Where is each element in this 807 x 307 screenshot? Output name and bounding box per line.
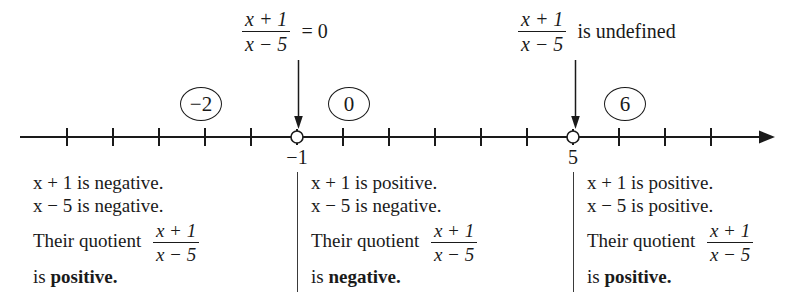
region-middle-line1: x + 1 is positive. [311, 173, 478, 192]
region-left-line1: x + 1 is negative. [33, 173, 200, 192]
region-right-quotient-denominator: x − 5 [707, 243, 753, 265]
region-left-text: x + 1 is negative. x − 5 is negative. Th… [33, 173, 200, 291]
sign-chart-diagram: x + 1 x − 5 = 0 x + 1 x − 5 is undefined… [0, 0, 807, 307]
region-middle-quotient: Their quotient x + 1 x − 5 [311, 220, 478, 266]
region-middle-conclusion-lead: is [311, 266, 324, 287]
region-right-conclusion: is positive. [587, 267, 754, 286]
region-left-line2: x − 5 is negative. [33, 196, 200, 215]
region-middle-conclusion-value: negative. [328, 266, 400, 287]
region-middle-conclusion: is negative. [311, 267, 478, 286]
region-middle-text: x + 1 is positive. x − 5 is negative. Th… [311, 173, 478, 291]
region-left-quotient-denominator: x − 5 [153, 243, 199, 265]
region-left-quotient-numerator: x + 1 [153, 220, 199, 243]
region-left-conclusion-value: positive. [50, 266, 117, 287]
region-right-text: x + 1 is positive. x − 5 is positive. Th… [587, 173, 754, 291]
region-right-quotient-numerator: x + 1 [707, 220, 753, 243]
region-right-conclusion-lead: is [587, 266, 600, 287]
point-label-five: 5 [543, 146, 603, 169]
region-right-line1: x + 1 is positive. [587, 173, 754, 192]
region-middle-line2: x − 5 is negative. [311, 196, 478, 215]
region-left-quotient-lead: Their quotient [33, 230, 141, 251]
region-divider-left [297, 172, 298, 292]
region-left-conclusion: is positive. [33, 267, 200, 286]
region-middle-quotient-lead: Their quotient [311, 230, 419, 251]
region-middle-quotient-fraction: x + 1 x − 5 [431, 220, 477, 266]
region-left-quotient: Their quotient x + 1 x − 5 [33, 220, 200, 266]
region-left-conclusion-lead: is [33, 266, 46, 287]
region-right-conclusion-value: positive. [604, 266, 671, 287]
region-left-quotient-fraction: x + 1 x − 5 [153, 220, 199, 266]
region-right-line2: x − 5 is positive. [587, 196, 754, 215]
region-middle-quotient-numerator: x + 1 [431, 220, 477, 243]
region-middle-quotient-denominator: x − 5 [431, 243, 477, 265]
region-right-quotient: Their quotient x + 1 x − 5 [587, 220, 754, 266]
point-label-negative-one: −1 [267, 146, 327, 169]
region-divider-right [573, 172, 574, 292]
region-right-quotient-lead: Their quotient [587, 230, 695, 251]
region-right-quotient-fraction: x + 1 x − 5 [707, 220, 753, 266]
